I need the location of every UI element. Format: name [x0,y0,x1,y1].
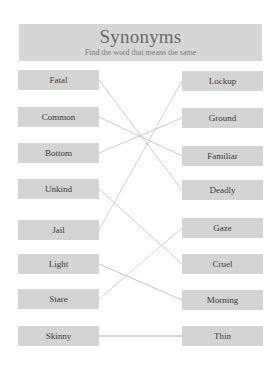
right-word-deadly[interactable]: Deadly [182,180,263,200]
right-word-thin[interactable]: Thin [182,326,263,346]
left-word-unkind[interactable]: Unkind [18,179,99,199]
left-word-skinny[interactable]: Skinny [18,326,99,346]
right-word-lockup[interactable]: Lockup [182,71,263,91]
match-line-stare-gaze [99,228,182,299]
left-word-jail[interactable]: Jail [18,220,99,240]
right-word-familiar[interactable]: Familiar [182,146,263,166]
right-word-gaze[interactable]: Gaze [182,218,263,238]
match-line-fatal-deadly [99,80,182,190]
right-word-morning[interactable]: Morning [182,290,263,310]
left-word-common[interactable]: Common [18,107,99,127]
left-word-light[interactable]: Light [18,254,99,274]
match-line-jail-lockup [99,81,182,230]
match-line-light-morning [99,264,182,300]
left-word-stare[interactable]: Stare [18,289,99,309]
left-word-bottom[interactable]: Bottom [18,143,99,163]
right-word-cruel[interactable]: Cruel [182,254,263,274]
left-word-fatal[interactable]: Fatal [18,70,99,90]
right-word-ground[interactable]: Ground [182,108,263,128]
match-line-unkind-cruel [99,189,182,264]
